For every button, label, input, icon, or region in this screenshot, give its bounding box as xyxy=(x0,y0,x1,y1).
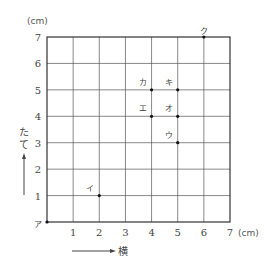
data-point: イ xyxy=(86,184,101,198)
y-tick-label: 4 xyxy=(35,111,41,122)
x-tick-label: 6 xyxy=(201,227,207,238)
data-point: オ xyxy=(165,104,180,118)
x-tick-label: 2 xyxy=(96,227,102,238)
x-axis-name: 横 xyxy=(118,245,128,257)
right-arrow-icon xyxy=(72,249,116,253)
y-tick-label: 3 xyxy=(35,138,41,149)
data-point: エ xyxy=(139,104,154,118)
point-marker xyxy=(176,88,179,91)
point-marker xyxy=(45,220,48,223)
data-point: ウ xyxy=(165,131,180,145)
y-tick-label: 5 xyxy=(35,85,41,96)
data-point: カ xyxy=(139,78,154,92)
y-axis-name-te: て xyxy=(19,139,29,150)
point-marker xyxy=(150,115,153,118)
data-point: キ xyxy=(165,78,180,92)
data-points: アイウエオカキク xyxy=(34,27,208,229)
point-label: キ xyxy=(165,78,173,87)
point-label: エ xyxy=(139,104,147,113)
y-unit-label: (cm) xyxy=(27,16,48,26)
point-marker xyxy=(176,141,179,144)
data-point: ア xyxy=(34,220,49,229)
point-label: ウ xyxy=(165,131,173,140)
grid-lines xyxy=(47,37,230,222)
y-tick-labels: 1234567 xyxy=(35,32,41,202)
point-label: ア xyxy=(34,220,42,229)
x-tick-label: 5 xyxy=(175,227,181,238)
y-tick-label: 2 xyxy=(35,164,41,175)
y-tick-label: 6 xyxy=(35,58,41,69)
coordinate-grid-chart: 1234567 1234567 アイウエオカキク (cm) (cm) た て 横 xyxy=(0,0,270,268)
x-unit-label: (cm) xyxy=(238,228,259,238)
point-marker xyxy=(150,88,153,91)
point-label: イ xyxy=(86,184,94,193)
up-arrow-icon xyxy=(22,153,26,195)
x-tick-label: 1 xyxy=(70,227,76,238)
y-tick-label: 1 xyxy=(35,191,41,202)
plot-frame xyxy=(47,37,230,222)
x-tick-label: 4 xyxy=(148,227,154,238)
point-marker xyxy=(98,194,101,197)
point-label: ク xyxy=(200,27,208,36)
point-label: カ xyxy=(139,78,147,87)
x-tick-label: 7 xyxy=(227,227,233,238)
x-tick-labels: 1234567 xyxy=(70,227,233,238)
x-tick-label: 3 xyxy=(122,227,128,238)
y-tick-label: 7 xyxy=(35,32,41,43)
point-marker xyxy=(176,115,179,118)
y-axis-name-ta: た xyxy=(19,127,29,138)
point-label: オ xyxy=(165,104,173,113)
